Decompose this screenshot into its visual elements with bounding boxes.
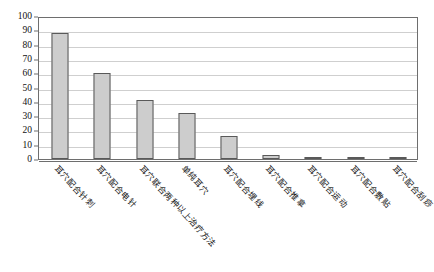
bar[interactable] <box>94 73 111 159</box>
y-axis-tick-label: 40 <box>23 98 33 108</box>
bar-slot <box>208 18 250 159</box>
bar[interactable] <box>305 157 322 159</box>
y-axis-tick-label: 80 <box>23 41 33 51</box>
bar[interactable] <box>347 157 364 159</box>
y-axis-tick-label: 20 <box>23 127 33 137</box>
bar[interactable] <box>136 100 153 159</box>
bar-slot <box>39 18 81 159</box>
bar[interactable] <box>263 155 280 159</box>
y-axis-tick-label: 0 <box>27 155 32 165</box>
x-axis-label-slot: 耳穴配合电针 <box>80 161 122 272</box>
y-axis-tick-label: 10 <box>23 141 33 151</box>
bar-slot <box>166 18 208 159</box>
bar[interactable] <box>220 136 237 159</box>
y-axis-tick-label: 100 <box>18 12 32 22</box>
plot-area <box>38 17 418 160</box>
bars-layer <box>39 18 417 159</box>
x-axis-tick-label: 耳穴配合刮痧 <box>391 164 434 209</box>
bar-slot <box>335 18 377 159</box>
x-axis-label-slot: 耳穴配合埋线 <box>207 161 249 272</box>
x-axis-label-slot: 耳穴配合敷贴 <box>334 161 376 272</box>
x-axis-label-slot: 耳穴配合运动 <box>291 161 333 272</box>
bar-slot <box>81 18 123 159</box>
bar[interactable] <box>389 157 406 159</box>
bar[interactable] <box>52 33 69 159</box>
y-axis: 1009080706050403020100 <box>0 17 38 160</box>
y-axis-tick-label: 90 <box>23 27 33 37</box>
x-axis-label-slot: 耳穴配合刮痧 <box>376 161 418 272</box>
y-axis-tick-label: 70 <box>23 55 33 65</box>
y-axis-tick-label: 50 <box>23 84 33 94</box>
x-axis-labels: 耳穴配合针刺耳穴配合电针耳穴联合两种以上治疗方法单纯耳穴耳穴配合埋线耳穴配合推拿… <box>38 161 418 272</box>
x-axis-tick-label: 单纯耳穴 <box>180 164 211 196</box>
bar-slot <box>250 18 292 159</box>
bar-slot <box>377 18 419 159</box>
bar-slot <box>123 18 165 159</box>
bar[interactable] <box>178 113 195 159</box>
bar-slot <box>292 18 334 159</box>
y-axis-tick-label: 60 <box>23 69 33 79</box>
x-axis-label-slot: 耳穴联合两种以上治疗方法 <box>122 161 164 272</box>
x-axis-label-slot: 耳穴配合针刺 <box>38 161 80 272</box>
x-axis-label-slot: 单纯耳穴 <box>165 161 207 272</box>
x-axis-label-slot: 耳穴配合推拿 <box>249 161 291 272</box>
y-axis-tick-label: 30 <box>23 112 33 122</box>
